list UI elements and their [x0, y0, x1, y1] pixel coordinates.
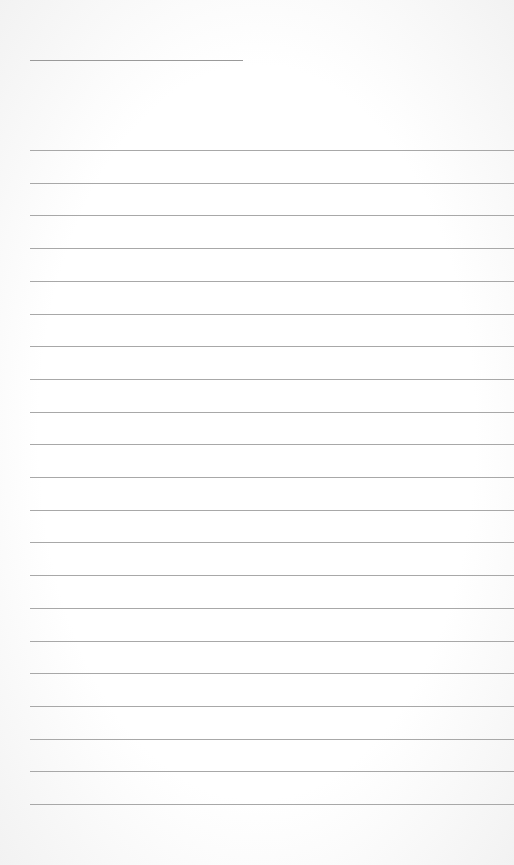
ruled-line — [30, 739, 514, 740]
ruled-line — [30, 215, 514, 216]
ruled-line — [30, 804, 514, 805]
ruled-line — [30, 379, 514, 380]
title-line — [30, 60, 243, 61]
ruled-line — [30, 706, 514, 707]
ruled-line — [30, 150, 514, 151]
ruled-line — [30, 575, 514, 576]
ruled-line — [30, 412, 514, 413]
ruled-line — [30, 542, 514, 543]
ruled-line — [30, 673, 514, 674]
lined-paper — [0, 0, 514, 865]
ruled-line — [30, 281, 514, 282]
ruled-line — [30, 608, 514, 609]
ruled-line — [30, 477, 514, 478]
ruled-line — [30, 183, 514, 184]
ruled-line — [30, 314, 514, 315]
ruled-line — [30, 641, 514, 642]
ruled-line — [30, 510, 514, 511]
ruled-line — [30, 444, 514, 445]
ruled-line — [30, 248, 514, 249]
ruled-line — [30, 771, 514, 772]
ruled-line — [30, 346, 514, 347]
